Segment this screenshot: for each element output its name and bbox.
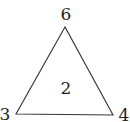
triangle-diagram: 6 2 3 4: [0, 0, 130, 122]
bottom-right-vertex-label: 4: [119, 105, 130, 122]
bottom-left-vertex-label: 3: [0, 104, 10, 122]
center-label: 2: [61, 78, 72, 98]
top-vertex-label: 6: [61, 4, 72, 24]
triangle-shape: [16, 27, 113, 115]
